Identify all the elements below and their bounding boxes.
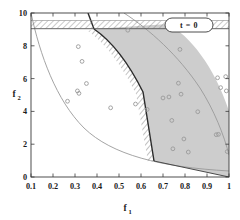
y-axis-title-base: f	[12, 89, 16, 99]
chart-figure: 0.10.20.30.40.50.60.70.80.91 0246810 f 1…	[0, 0, 240, 220]
y-axis-title-subscript: 2	[17, 94, 20, 101]
x-axis-title-base: f	[123, 203, 127, 213]
x-tick-label: 0.9	[202, 182, 212, 191]
annotation-legend: t = 0	[165, 18, 213, 32]
annotation-legend-label: t = 0	[180, 21, 198, 30]
y-tick-label: 8	[23, 42, 27, 51]
x-tick-label: 0.3	[70, 182, 80, 191]
x-tick-label: 0.2	[48, 182, 58, 191]
y-axis-title: f 2	[12, 89, 20, 101]
x-tick-label: 0.1	[26, 182, 36, 191]
x-tick-label: 0.6	[136, 182, 146, 191]
y-tick-label: 2	[23, 140, 27, 149]
x-axis-tick-labels: 0.10.20.30.40.50.60.70.80.91	[26, 182, 231, 191]
x-tick-label: 0.8	[180, 182, 190, 191]
y-tick-label: 6	[23, 75, 27, 84]
y-tick-label: 4	[23, 107, 27, 116]
y-tick-label: 10	[19, 9, 27, 18]
x-tick-label: 1	[227, 182, 231, 191]
x-tick-label: 0.7	[158, 182, 168, 191]
y-tick-label: 0	[23, 173, 27, 182]
x-axis-title: f 1	[123, 203, 131, 215]
scatter-plot-svg: 0.10.20.30.40.50.60.70.80.91 0246810 f 1…	[0, 0, 240, 220]
x-axis-title-subscript: 1	[128, 208, 131, 215]
x-tick-label: 0.4	[92, 182, 102, 191]
x-tick-label: 0.5	[114, 182, 124, 191]
